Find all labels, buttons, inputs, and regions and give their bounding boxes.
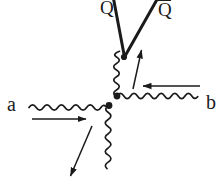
label-antiquark-letter: Q bbox=[158, 0, 172, 19]
antiquark-line-Qbar bbox=[125, 0, 160, 57]
boson-line-internal bbox=[114, 51, 120, 96]
label-incoming-b: b bbox=[206, 92, 216, 112]
momentum-arrow-internal-up bbox=[133, 50, 142, 89]
vertex-top bbox=[121, 54, 127, 60]
quark-line-Q bbox=[113, 0, 125, 57]
momentum-arrow-outgoing-down bbox=[71, 126, 93, 176]
vertex-upper bbox=[114, 93, 121, 100]
boson-line-outgoing bbox=[105, 106, 111, 169]
label-antiquark: Q bbox=[158, 0, 172, 17]
feynman-diagram-canvas: Q Q a b bbox=[0, 0, 223, 188]
label-quark: Q bbox=[100, 0, 114, 17]
label-incoming-a: a bbox=[7, 94, 16, 114]
boson-line-b bbox=[117, 93, 198, 98]
feynman-diagram-svg bbox=[0, 0, 223, 188]
boson-line-a bbox=[29, 105, 105, 110]
vertex-lower bbox=[106, 102, 113, 109]
